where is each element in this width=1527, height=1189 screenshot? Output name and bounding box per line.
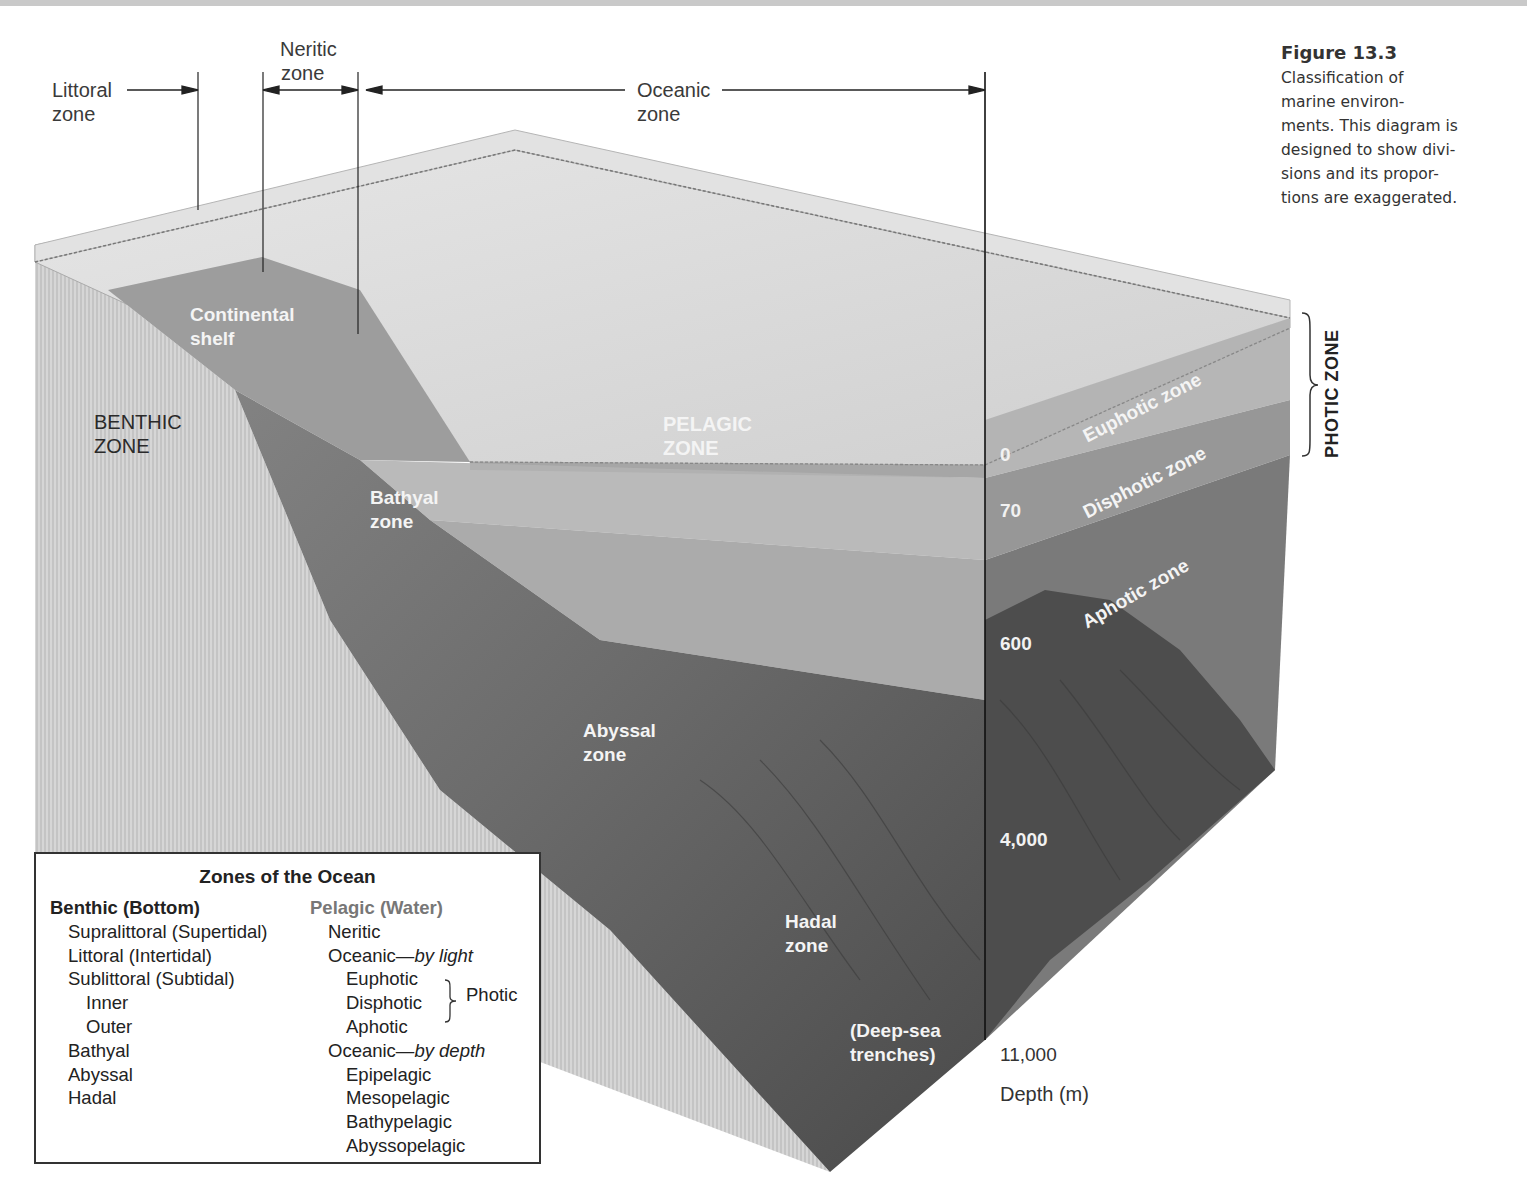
- legend-item: Inner: [50, 991, 267, 1015]
- littoral-zone-label-line1: Littoral: [52, 78, 112, 102]
- legend-title: Zones of the Ocean: [36, 866, 539, 888]
- legend-item: Disphotic: [310, 991, 485, 1015]
- oceanic-zone-label-line1: Oceanic: [637, 78, 710, 102]
- caption-line: ments. This diagram is: [1281, 114, 1521, 138]
- trenches-label-line1: (Deep-sea: [850, 1019, 941, 1043]
- depth-tick-600: 600: [1000, 632, 1032, 656]
- legend-item: Sublittoral (Subtidal): [50, 967, 267, 991]
- continental-shelf-label-line1: Continental: [190, 303, 295, 327]
- figure-number: Figure 13.3: [1281, 40, 1521, 66]
- bathyal-zone-label-line2: zone: [370, 510, 439, 534]
- legend-text-italic: by depth: [414, 1040, 485, 1061]
- depth-tick-11000: 11,000: [1000, 1043, 1057, 1067]
- legend-item: Abyssopelagic: [310, 1134, 485, 1158]
- abyssal-zone-label-line1: Abyssal: [583, 719, 656, 743]
- legend-text: Oceanic—: [328, 945, 414, 966]
- zones-legend: Zones of the Ocean Benthic (Bottom) Supr…: [34, 852, 541, 1164]
- legend-pelagic-heading: Pelagic (Water): [310, 896, 485, 920]
- depth-axis-label: Depth (m): [1000, 1082, 1089, 1106]
- legend-item: Bathypelagic: [310, 1110, 485, 1134]
- legend-text-italic: by light: [414, 945, 473, 966]
- depth-tick-0: 0: [1000, 443, 1011, 467]
- legend-item: Outer: [50, 1015, 267, 1039]
- figure-caption: Figure 13.3 Classification of marine env…: [1281, 40, 1521, 210]
- legend-item: Aphotic: [310, 1015, 485, 1039]
- caption-line: Classification of: [1281, 66, 1521, 90]
- legend-benthic-heading: Benthic (Bottom): [50, 896, 267, 920]
- legend-item: Supralittoral (Supertidal): [50, 920, 267, 944]
- neritic-zone-label-line1: Neritic: [280, 37, 337, 61]
- littoral-zone-label-line2: zone: [52, 102, 112, 126]
- littoral-zone-label: Littoral zone: [52, 78, 112, 126]
- neritic-zone-label-line2: zone: [280, 61, 337, 85]
- oceanic-zone-label-line2: zone: [637, 102, 710, 126]
- abyssal-zone-label-line2: zone: [583, 743, 656, 767]
- deep-sea-trenches-label: (Deep-sea trenches): [850, 1019, 941, 1067]
- depth-tick-70: 70: [1000, 499, 1021, 523]
- neritic-zone-label: Neritic zone: [280, 37, 337, 85]
- continental-shelf-label-line2: shelf: [190, 327, 295, 351]
- caption-line: marine environ-: [1281, 90, 1521, 114]
- bathyal-zone-label: Bathyal zone: [370, 486, 439, 534]
- bathyal-zone-label-line1: Bathyal: [370, 486, 439, 510]
- legend-item: Littoral (Intertidal): [50, 944, 267, 968]
- legend-item: Hadal: [50, 1086, 267, 1110]
- benthic-zone-label: BENTHIC ZONE: [94, 410, 182, 458]
- trenches-label-line2: trenches): [850, 1043, 941, 1067]
- pelagic-zone-label-line1: PELAGIC: [663, 412, 752, 436]
- benthic-zone-label-line1: BENTHIC: [94, 410, 182, 434]
- legend-text: Oceanic—: [328, 1040, 414, 1061]
- legend-photic-brace-icon: [443, 978, 459, 1024]
- legend-item: Neritic: [310, 920, 485, 944]
- benthic-zone-label-line2: ZONE: [94, 434, 182, 458]
- continental-shelf-label: Continental shelf: [190, 303, 295, 351]
- abyssal-zone-label: Abyssal zone: [583, 719, 656, 767]
- caption-line: designed to show divi-: [1281, 138, 1521, 162]
- hadal-zone-label-line2: zone: [785, 934, 837, 958]
- hadal-zone-label: Hadal zone: [785, 910, 837, 958]
- legend-item: Bathyal: [50, 1039, 267, 1063]
- legend-item: Abyssal: [50, 1063, 267, 1087]
- legend-benthic-column: Benthic (Bottom) Supralittoral (Supertid…: [50, 896, 267, 1110]
- legend-pelagic-column: Pelagic (Water) Neritic Oceanic—by light…: [310, 896, 485, 1158]
- photic-zone-label: PHOTIC ZONE: [1322, 329, 1343, 458]
- oceanic-zone-label: Oceanic zone: [637, 78, 710, 126]
- caption-line: sions and its propor-: [1281, 162, 1521, 186]
- legend-item: Mesopelagic: [310, 1086, 485, 1110]
- legend-item-oceanic-depth: Oceanic—by depth: [310, 1039, 485, 1063]
- hadal-zone-label-line1: Hadal: [785, 910, 837, 934]
- zone-arrows: [127, 86, 985, 94]
- legend-item-oceanic-light: Oceanic—by light: [310, 944, 485, 968]
- legend-item: Epipelagic: [310, 1063, 485, 1087]
- depth-tick-4000: 4,000: [1000, 828, 1048, 852]
- caption-line: tions are exaggerated.: [1281, 186, 1521, 210]
- legend-item: Euphotic: [310, 967, 485, 991]
- photic-zone-brace: [1302, 313, 1318, 456]
- pelagic-zone-label: PELAGIC ZONE: [663, 412, 752, 460]
- pelagic-zone-label-line2: ZONE: [663, 436, 752, 460]
- legend-photic-label: Photic: [466, 984, 517, 1006]
